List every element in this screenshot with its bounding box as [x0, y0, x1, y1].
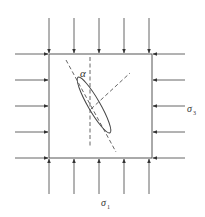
angle-alpha-label: α: [80, 67, 86, 79]
left-arrows: [15, 54, 48, 158]
specimen-box: [49, 54, 152, 158]
sigma3-label: σ 3: [187, 103, 196, 116]
sigma1-label: σ 1: [101, 197, 110, 210]
svg-text:3: 3: [193, 110, 196, 116]
right-arrows: [153, 54, 185, 158]
svg-text:1: 1: [107, 204, 110, 210]
fault-axis-dashed-line: [66, 60, 116, 152]
bottom-arrows: [49, 159, 149, 194]
stress-diagram: α σ 3 σ 1: [0, 0, 205, 217]
normal-dashed-line: [91, 73, 130, 109]
top-arrows: [49, 18, 149, 53]
